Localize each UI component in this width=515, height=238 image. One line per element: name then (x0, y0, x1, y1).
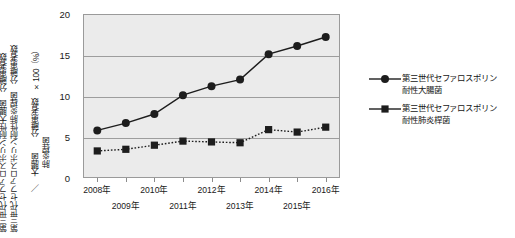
y-tick-label: 5 (30, 132, 70, 143)
legend-label: 第三世代セファロスポリン 耐性大腸菌 (402, 72, 497, 96)
x-tick-label: 2016年 (312, 183, 340, 195)
y-axis-title-line-1: 第三世代セファロスポリン耐性大腸菌 分離患者数 (1, 53, 9, 232)
x-tick-mark (154, 178, 155, 182)
data-point-marker (179, 91, 187, 99)
legend-item[interactable]: 第三世代セファロスポリン 耐性大腸菌 (368, 72, 515, 96)
data-point-marker (150, 110, 158, 118)
y-tick-label: 20 (30, 9, 70, 20)
y-axis-title-line-4: 肺炎桿菌 (44, 137, 52, 192)
data-point-marker (265, 50, 273, 58)
x-tick-mark (240, 178, 241, 182)
data-point-marker (208, 138, 215, 145)
y-axis-title-line-3: ／ 大腸菌 分離患者数 ×100（%） (33, 46, 41, 192)
data-point-marker (294, 128, 301, 135)
data-point-marker (208, 82, 216, 90)
x-tick-mark (97, 178, 98, 182)
x-tick-label: 2012年 (197, 183, 225, 195)
data-point-marker (122, 119, 130, 127)
series-layer (83, 14, 340, 178)
x-tick-label: 2010年 (140, 183, 168, 195)
legend-square-marker-icon (368, 102, 402, 124)
y-axis-title-line-2: 第三世代セファロスポリン耐性肺炎桿菌 分離患者数 (12, 45, 20, 232)
chart-legend: 第三世代セファロスポリン 耐性大腸菌第三世代セファロスポリン 耐性肺炎桿菌 (368, 72, 515, 132)
x-tick-mark (183, 178, 184, 182)
x-tick-mark (326, 178, 327, 182)
x-tick-label: 2015年 (283, 199, 311, 211)
data-point-marker (94, 147, 101, 154)
data-point-marker (322, 33, 330, 41)
x-tick-mark (297, 178, 298, 182)
y-tick-label: 10 (30, 91, 70, 102)
x-tick-label: 2013年 (226, 199, 254, 211)
legend-label: 第三世代セファロスポリン 耐性肺炎桿菌 (402, 102, 497, 126)
plot-wrapper: 05101520 2008年2009年2010年2011年2012年2013年2… (56, 0, 356, 238)
x-tick-label: 2014年 (255, 183, 283, 195)
data-point-marker (151, 142, 158, 149)
x-tick-label: 2011年 (169, 199, 196, 211)
data-point-marker (236, 76, 244, 84)
y-axis-title-group: 第三世代セファロスポリン耐性大腸菌 分離患者数 第三世代セファロスポリン耐性肺炎… (0, 0, 56, 238)
x-tick-mark (212, 178, 213, 182)
x-tick-label: 2009年 (112, 199, 140, 211)
data-point-marker (179, 138, 186, 145)
data-point-marker (236, 139, 243, 146)
y-tick-label: 0 (30, 173, 70, 184)
data-point-marker (93, 126, 101, 134)
data-point-marker (122, 146, 129, 153)
data-point-marker (265, 126, 272, 133)
y-tick-label: 15 (30, 50, 70, 61)
chart-figure: 第三世代セファロスポリン耐性大腸菌 分離患者数 第三世代セファロスポリン耐性肺炎… (0, 0, 515, 238)
data-point-marker (293, 42, 301, 50)
data-point-marker (322, 124, 329, 131)
x-tick-label: 2008年 (83, 183, 111, 195)
legend-circle-marker-icon (368, 72, 402, 94)
x-tick-mark (269, 178, 270, 182)
legend-item[interactable]: 第三世代セファロスポリン 耐性肺炎桿菌 (368, 102, 515, 126)
x-tick-mark (126, 178, 127, 182)
